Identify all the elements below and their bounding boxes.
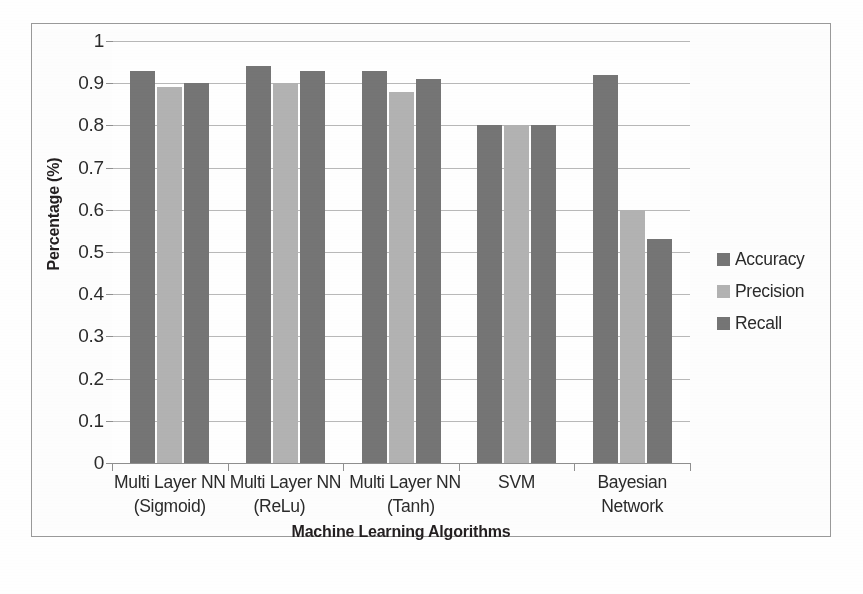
y-axis-tick-label: 1	[58, 31, 104, 50]
x-axis-category-label-line2: (ReLu)	[214, 494, 346, 518]
x-axis-tick-mark	[112, 463, 113, 471]
x-axis-category-label: SVM	[451, 470, 583, 494]
x-axis-tick-mark	[228, 463, 229, 471]
y-axis-tick-mark	[106, 125, 113, 126]
legend-item-recall[interactable]: Recall	[717, 307, 829, 339]
y-axis-tick-label: 0.3	[58, 326, 104, 345]
y-axis-tick-mark	[106, 294, 113, 295]
y-axis-tick-label: 0.4	[58, 284, 104, 303]
bar-precision-1	[157, 87, 182, 463]
y-axis-tick-label: 0	[58, 453, 104, 472]
y-axis-tick-mark	[106, 83, 113, 84]
y-axis-tick-mark	[106, 336, 113, 337]
legend-swatch-icon	[717, 253, 730, 266]
y-axis-tick-mark	[106, 41, 113, 42]
x-axis-category-label-line1: Multi Layer NN	[220, 470, 352, 494]
y-axis-title: Percentage (%)	[45, 114, 63, 314]
x-axis-category-label: Multi Layer NN(ReLu)	[220, 470, 352, 518]
y-axis-tick-label: 0.6	[58, 200, 104, 219]
legend-item-accuracy[interactable]: Accuracy	[717, 243, 829, 275]
chart-legend: AccuracyPrecisionRecall	[717, 243, 829, 339]
y-axis-tick-mark	[106, 252, 113, 253]
x-axis-tick-mark	[343, 463, 344, 471]
bar-recall-4	[531, 125, 556, 463]
x-axis-tick-mark	[459, 463, 460, 471]
legend-swatch-icon	[717, 317, 730, 330]
y-axis-tick-label: 0.5	[58, 242, 104, 261]
y-axis-tick-label: 0.1	[58, 411, 104, 430]
x-axis-tick-mark	[690, 463, 691, 471]
legend-label: Accuracy	[735, 250, 805, 268]
x-axis-category-label-line2: (Tanh)	[345, 494, 477, 518]
bar-precision-5	[620, 210, 645, 463]
y-axis-tick-label: 0.8	[58, 115, 104, 134]
x-axis-title: Machine Learning Algorithms	[112, 523, 690, 541]
x-axis-category-label-line1: Bayesian	[566, 470, 698, 494]
y-axis-tick-mark	[106, 379, 113, 380]
legend-item-precision[interactable]: Precision	[717, 275, 829, 307]
x-axis-category-label: BayesianNetwork	[566, 470, 698, 518]
x-axis-category-label-line2: Network	[566, 494, 698, 518]
y-axis-tick-mark	[106, 421, 113, 422]
gridline	[112, 41, 690, 42]
x-axis-category-labels: Multi Layer NN(Sigmoid)Multi Layer NN(Re…	[112, 470, 690, 526]
y-axis-tick-label: 0.2	[58, 369, 104, 388]
y-axis-tick-mark	[106, 210, 113, 211]
bar-accuracy-4	[477, 125, 502, 463]
bar-recall-2	[300, 71, 325, 463]
gridline	[112, 463, 690, 464]
legend-label: Recall	[735, 314, 782, 332]
legend-label: Precision	[735, 282, 804, 300]
bar-accuracy-2	[246, 66, 271, 463]
x-axis-tick-mark	[574, 463, 575, 471]
caption-ghost-text	[40, 583, 830, 594]
plot-area	[112, 41, 690, 463]
bar-accuracy-5	[593, 75, 618, 463]
x-axis-category-label-line1: Multi Layer NN	[104, 470, 236, 494]
x-axis-category-label-line1: SVM	[451, 470, 583, 494]
bar-precision-4	[504, 125, 529, 463]
bar-accuracy-3	[362, 71, 387, 463]
y-axis-tick-label: 0.7	[58, 158, 104, 177]
bar-precision-3	[389, 92, 414, 463]
bar-precision-2	[273, 83, 298, 463]
bar-recall-5	[647, 239, 672, 463]
bar-recall-3	[416, 79, 441, 463]
bar-accuracy-1	[130, 71, 155, 463]
y-axis-tick-label: 0.9	[58, 73, 104, 92]
y-axis-tick-mark	[106, 168, 113, 169]
legend-swatch-icon	[717, 285, 730, 298]
bar-recall-1	[184, 83, 209, 463]
